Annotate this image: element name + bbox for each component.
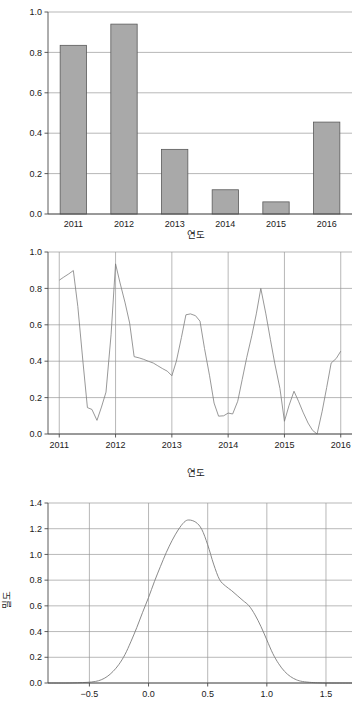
bar-y-tick-label: 0.6 — [29, 88, 42, 98]
density-chart-svg: 0.00.20.40.60.81.01.21.4 −0.50.00.51.01.… — [0, 485, 357, 723]
density-chart-y-axis-title: 밀도 — [1, 591, 12, 609]
bar-y-tick-label: 0.8 — [29, 48, 42, 58]
density-y-tick-label: 0.8 — [29, 575, 42, 585]
table-row — [111, 24, 137, 214]
line-y-tick-label: 1.0 — [29, 247, 42, 257]
bar-x-tick-label: 2012 — [114, 219, 134, 229]
table-row — [212, 190, 238, 214]
density-chart-series — [48, 520, 352, 683]
bar-x-tick-label: 2016 — [317, 219, 337, 229]
table-row — [161, 149, 187, 214]
bar-x-tick-label: 2015 — [266, 219, 286, 229]
line-x-tick-label: 2011 — [50, 440, 69, 450]
density-y-tick-label: 0.2 — [29, 652, 42, 662]
bar-chart-x-tick-labels: 201120122013201420152016 — [64, 219, 337, 229]
bar-chart-axes — [45, 12, 353, 214]
density-x-tick-label: 1.5 — [320, 689, 333, 699]
line-chart-path — [59, 264, 340, 434]
line-chart-x-tick-labels: 201120122013201420152016 — [50, 440, 351, 450]
density-y-tick-label: 0.4 — [29, 627, 42, 637]
density-x-tick-label: −0.5 — [81, 689, 99, 699]
table-row — [60, 45, 86, 214]
density-y-tick-label: 0.0 — [29, 678, 42, 688]
density-y-tick-label: 1.2 — [29, 524, 42, 534]
density-x-tick-label: 1.0 — [261, 689, 274, 699]
density-y-tick-label: 0.6 — [29, 601, 42, 611]
bar-y-tick-label: 0.0 — [29, 209, 42, 219]
line-chart-x-axis-title: 연도 — [187, 467, 205, 478]
line-x-tick-label: 2013 — [162, 440, 182, 450]
line-chart-axes — [45, 252, 353, 438]
bar-x-tick-label: 2013 — [165, 219, 185, 229]
bar-chart-gridlines — [48, 12, 352, 214]
bar-x-tick-label: 2011 — [64, 219, 83, 229]
bar-chart-y-tick-labels: 0.00.20.40.60.81.0 — [29, 7, 42, 219]
bar-y-tick-label: 0.2 — [29, 169, 42, 179]
line-chart-gridlines — [48, 252, 352, 434]
line-x-tick-label: 2016 — [331, 440, 351, 450]
line-x-tick-label: 2015 — [274, 440, 294, 450]
line-chart-svg: 0.00.20.40.60.81.0 201120122013201420152… — [0, 242, 357, 485]
bar-y-tick-label: 0.4 — [29, 128, 42, 138]
bar-x-tick-label: 2014 — [215, 219, 235, 229]
density-chart-gridlines — [48, 503, 352, 683]
line-x-tick-label: 2014 — [218, 440, 238, 450]
line-chart-series — [59, 264, 340, 434]
density-chart-figure: 0.00.20.40.60.81.01.21.4 −0.50.00.51.01.… — [0, 485, 357, 723]
table-row — [263, 202, 289, 214]
line-chart-y-tick-labels: 0.00.20.40.60.81.0 — [29, 247, 42, 439]
line-y-tick-label: 0.0 — [29, 429, 42, 439]
bar-chart-x-axis-title: 연도 — [187, 229, 205, 240]
line-y-tick-label: 0.4 — [29, 356, 42, 366]
bar-chart-svg: 0.00.20.40.60.81.0 201120122013201420152… — [0, 0, 357, 242]
line-chart-figure: 0.00.20.40.60.81.0 201120122013201420152… — [0, 242, 357, 485]
figure-caption — [4, 713, 353, 723]
density-chart-x-tick-labels: −0.50.00.51.01.5 — [81, 689, 333, 699]
density-y-tick-label: 1.0 — [29, 550, 42, 560]
density-chart-axes — [45, 503, 353, 687]
density-x-tick-label: 0.0 — [142, 689, 155, 699]
table-row — [313, 122, 339, 214]
bar-y-tick-label: 1.0 — [29, 7, 42, 17]
bar-chart-figure: 0.00.20.40.60.81.0 201120122013201420152… — [0, 0, 357, 242]
line-y-tick-label: 0.6 — [29, 320, 42, 330]
density-chart-y-tick-labels: 0.00.20.40.60.81.01.21.4 — [29, 498, 42, 688]
density-y-tick-label: 1.4 — [29, 498, 42, 508]
density-x-tick-label: 0.5 — [201, 689, 214, 699]
line-y-tick-label: 0.2 — [29, 393, 42, 403]
line-y-tick-label: 0.8 — [29, 284, 42, 294]
density-chart-path — [48, 520, 352, 683]
line-x-tick-label: 2012 — [106, 440, 126, 450]
